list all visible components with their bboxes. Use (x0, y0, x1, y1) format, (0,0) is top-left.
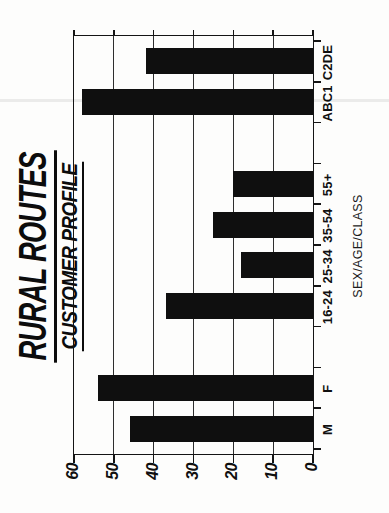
bar-f (98, 375, 313, 401)
y-tick-40 (153, 454, 155, 463)
chart-canvas: RURAL ROUTES CUSTOMER PROFILE 0102030405… (0, 0, 389, 513)
bar-16-24 (166, 293, 313, 319)
y-tick-label-10: 10 (263, 463, 281, 505)
chart-title: RURAL ROUTES (14, 150, 57, 363)
category-label-55+: 55+ (320, 150, 335, 220)
y-tick-label-50: 50 (104, 463, 122, 505)
y-tick-label-20: 20 (223, 463, 241, 505)
x-axis-title: SEX/AGE/CLASS (351, 37, 365, 455)
y-tick-30 (193, 454, 195, 463)
chart-title-row: RURAL ROUTES (14, 0, 57, 513)
bar-abc1 (82, 89, 313, 115)
y-tick-label-0: 0 (303, 463, 321, 505)
y-tick-label-60: 60 (64, 463, 82, 505)
y-tick-right-40 (153, 30, 155, 36)
bar-25-34 (241, 252, 313, 278)
category-label-c2de: C2DE (320, 28, 335, 98)
scanned-page: RURAL ROUTES CUSTOMER PROFILE 0102030405… (0, 0, 389, 513)
y-tick-20 (233, 454, 235, 463)
y-tick-right-20 (233, 30, 235, 36)
y-tick-right-10 (272, 30, 274, 36)
bar-c2de (146, 49, 313, 75)
bar-m (130, 416, 313, 442)
y-tick-right-50 (113, 30, 115, 36)
y-tick-10 (272, 454, 274, 463)
category-label-f: F (320, 354, 335, 424)
y-tick-0 (312, 454, 314, 463)
y-tick-label-30: 30 (184, 463, 202, 505)
bar-55+ (233, 171, 313, 197)
y-tick-right-0 (312, 30, 314, 36)
y-tick-60 (73, 454, 75, 463)
y-tick-right-30 (193, 30, 195, 36)
plot-area (73, 35, 314, 455)
y-tick-label-40: 40 (144, 463, 162, 505)
y-tick-right-60 (73, 30, 75, 36)
bar-35-54 (213, 212, 313, 238)
y-tick-50 (113, 454, 115, 463)
